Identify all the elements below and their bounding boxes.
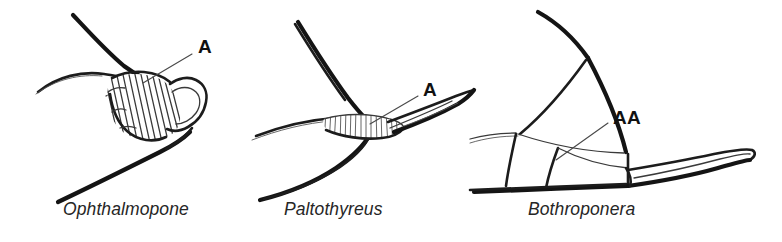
- genus-label-paltothyreus: Paltothyreus: [284, 199, 383, 219]
- dorsal-outline-upper: [298, 22, 366, 119]
- genus-label-bothroponera: Bothroponera: [528, 199, 635, 219]
- callout-label-aa: AA: [613, 107, 641, 128]
- sting-inner-line: [390, 101, 452, 128]
- suture-middle-vertical: [546, 148, 558, 188]
- callout-label-a: A: [198, 36, 212, 57]
- propodeum-dorsal-arc: [538, 12, 588, 58]
- propodeal-spine-lower: [628, 160, 750, 186]
- ventral-outline: [58, 132, 190, 202]
- dorsal-outline-upper: [73, 15, 145, 79]
- node-ventral-outline: [260, 134, 370, 200]
- node-ventral-outline-inner: [264, 130, 372, 199]
- dorsal-hairline: [36, 76, 102, 94]
- bothroponera-drawing: AA Bothroponera: [470, 0, 782, 242]
- propodeal-spine-upper: [628, 149, 755, 170]
- ophthalmopone-drawing: A Ophthalmopone: [0, 0, 250, 242]
- propodeum-declivity: [588, 58, 626, 152]
- suture-left-vertical: [506, 134, 516, 186]
- callout-leader-line: [556, 123, 608, 160]
- dorsal-outline-upper-shadow: [295, 24, 345, 100]
- panel-bothroponera: AA Bothroponera: [470, 0, 782, 242]
- panel-ophthalmopone: A Ophthalmopone: [0, 0, 250, 242]
- callout-label-a: A: [423, 79, 437, 100]
- paltothyreus-drawing: A Paltothyreus: [248, 0, 496, 242]
- panel-paltothyreus: A Paltothyreus: [248, 0, 496, 242]
- figure-root: A Ophthalmopone: [0, 0, 782, 242]
- propodeum-anterior-margin: [520, 60, 586, 134]
- genus-label-ophthalmopone: Ophthalmopone: [63, 199, 189, 219]
- metapleural-line: [518, 134, 624, 153]
